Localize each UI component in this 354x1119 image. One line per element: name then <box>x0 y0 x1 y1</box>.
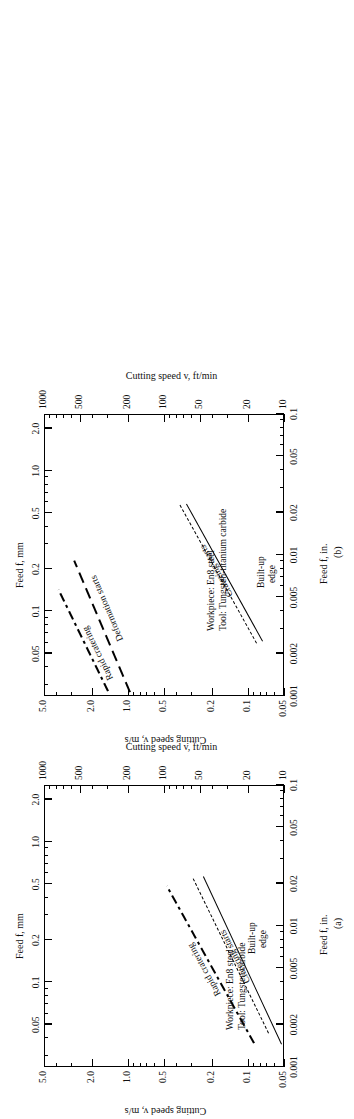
minor-tick-speed-ftmin <box>56 414 57 418</box>
minor-tick-speed-ftmin <box>92 414 93 418</box>
minor-tick-speed-ftmin <box>107 414 108 418</box>
axis-title-feed-in-b: Feed f, in. <box>318 543 329 584</box>
minor-tick-feed-in <box>280 435 284 436</box>
minor-tick-speed-ms <box>176 692 177 696</box>
major-tick-feed-mm <box>44 470 52 471</box>
tick-label-speed-ftmin: 50 <box>194 379 204 409</box>
major-tick-speed-ms <box>92 688 93 696</box>
minor-tick-speed-ftmin <box>49 414 50 418</box>
major-tick-feed-in <box>276 695 284 696</box>
minor-tick-speed-ftmin <box>92 785 93 789</box>
tick-label-feed-in: 0.1 <box>289 772 299 798</box>
tick-label-feed-mm: 0.5 <box>31 500 41 526</box>
major-tick-speed-ms <box>284 1059 285 1067</box>
tick-label-feed-in: 0.02 <box>289 871 299 897</box>
minor-tick-feed-mm <box>44 501 48 502</box>
tick-label-feed-mm: 0.1 <box>31 598 41 624</box>
minor-tick-feed-in <box>280 931 284 932</box>
minor-tick-feed-mm <box>44 863 48 864</box>
minor-tick-feed-mm <box>44 897 48 898</box>
tick-label-feed-in: 0.02 <box>289 500 299 526</box>
major-tick-speed-ms <box>92 1059 93 1067</box>
minor-tick-speed-ftmin <box>176 785 177 789</box>
tick-label-speed-ftmin: 20 <box>242 750 252 780</box>
minor-tick-feed-mm <box>44 1055 48 1056</box>
tick-label-speed-ms: 0.5 <box>158 1071 168 1099</box>
major-tick-speed-ms <box>44 688 45 696</box>
minor-tick-speed-ms <box>274 692 275 696</box>
major-tick-feed-in <box>276 1066 284 1067</box>
tick-label-speed-ftmin: 1000 <box>38 379 48 409</box>
axis-title-feed-in-a: Feed f, in. <box>318 914 329 955</box>
major-tick-feed-in <box>276 652 284 653</box>
major-tick-speed-ms <box>212 1059 213 1067</box>
minor-tick-feed-mm <box>44 995 48 996</box>
minor-tick-feed-in <box>280 568 284 569</box>
minor-tick-speed-ftmin <box>71 785 72 789</box>
major-tick-feed-mm <box>44 841 52 842</box>
major-tick-speed-ms <box>128 688 129 696</box>
tick-label-feed-in: 0.01 <box>289 913 299 939</box>
tick-label-speed-ms: 1.0 <box>122 1071 132 1099</box>
major-tick-feed-mm <box>44 883 52 884</box>
minor-tick-speed-ms <box>260 692 261 696</box>
minor-tick-feed-mm <box>44 484 48 485</box>
minor-tick-feed-in <box>280 560 284 561</box>
major-tick-speed-ms <box>128 1059 129 1067</box>
minor-tick-feed-in <box>280 628 284 629</box>
major-tick-feed-mm <box>44 981 52 982</box>
major-tick-speed-ms <box>164 1059 165 1067</box>
tick-label-speed-ftmin: 100 <box>158 379 168 409</box>
minor-tick-speed-ms <box>253 1063 254 1067</box>
major-tick-feed-mm <box>44 568 52 569</box>
minor-tick-feed-mm <box>44 617 48 618</box>
minor-tick-speed-ftmin <box>107 785 108 789</box>
tick-label-feed-mm: 2.0 <box>31 787 41 813</box>
minor-tick-feed-in <box>280 939 284 940</box>
tick-label-feed-in: 0.001 <box>289 1054 299 1080</box>
major-tick-speed-ms <box>284 688 285 696</box>
major-tick-feed-in <box>276 967 284 968</box>
tick-label-feed-in: 0.002 <box>289 1012 299 1038</box>
tick-label-speed-ms: 5.0 <box>38 700 48 728</box>
tick-label-feed-in: 0.005 <box>289 584 299 610</box>
minor-tick-speed-ftmin <box>49 785 50 789</box>
minor-tick-speed-ms <box>56 692 57 696</box>
minor-tick-speed-ftmin <box>191 785 192 789</box>
tick-label-feed-in: 0.001 <box>289 683 299 709</box>
tick-label-speed-ms: 1.0 <box>122 700 132 728</box>
major-tick-feed-in <box>276 455 284 456</box>
minor-tick-feed-in <box>280 981 284 982</box>
minor-tick-feed-in <box>280 610 284 611</box>
chart-panel-b: Rapid cratering Deformation starts Crate… <box>0 380 354 751</box>
panel-label-b: (b) <box>332 546 343 558</box>
minor-tick-speed-ms <box>266 692 267 696</box>
minor-tick-speed-ftmin <box>227 785 228 789</box>
minor-tick-feed-mm <box>44 666 48 667</box>
tick-label-feed-mm: 2.0 <box>31 416 41 442</box>
tick-label-speed-ms: 0.05 <box>278 1071 288 1099</box>
major-tick-speed-ftmin <box>200 414 201 422</box>
minor-tick-speed-ms <box>146 1063 147 1067</box>
minor-tick-feed-in <box>280 444 284 445</box>
minor-tick-speed-ms <box>260 1063 261 1067</box>
major-tick-feed-mm <box>44 1023 52 1024</box>
major-tick-feed-mm <box>44 939 52 940</box>
major-tick-speed-ms <box>164 688 165 696</box>
minor-tick-speed-ms <box>154 1063 155 1067</box>
minor-tick-speed-ms <box>146 692 147 696</box>
major-tick-speed-ftmin <box>164 785 165 793</box>
tick-label-feed-in: 0.05 <box>289 443 299 469</box>
major-tick-feed-in <box>276 596 284 597</box>
minor-tick-feed-in <box>280 487 284 488</box>
major-tick-speed-ftmin <box>284 414 285 422</box>
tick-label-speed-ms: 0.2 <box>206 1071 216 1099</box>
tick-label-speed-ftmin: 500 <box>74 379 84 409</box>
curve-label-edge-a: edge <box>258 930 268 948</box>
major-tick-feed-in <box>276 413 284 414</box>
tick-label-speed-ftmin: 20 <box>242 379 252 409</box>
tick-label-feed-mm: 0.2 <box>31 927 41 953</box>
minor-tick-feed-in <box>280 427 284 428</box>
minor-tick-speed-ms <box>191 1063 192 1067</box>
minor-tick-speed-ms <box>56 1063 57 1067</box>
